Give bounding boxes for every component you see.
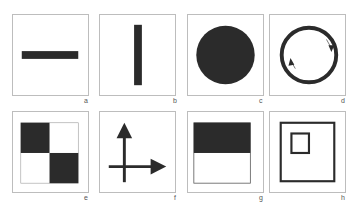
panel-a — [12, 14, 89, 96]
filled-circle-icon — [188, 15, 263, 95]
panel-label-h: h — [341, 194, 345, 202]
half-filled-square-icon — [188, 112, 263, 192]
panel-d — [269, 14, 346, 96]
horizontal-bar-icon — [13, 15, 88, 95]
panel-g — [187, 111, 264, 193]
checkerboard-icon — [13, 112, 88, 192]
panel-label-f: f — [174, 194, 176, 202]
panel-label-b: b — [173, 97, 177, 105]
panel-e — [12, 111, 89, 193]
panel-c — [187, 14, 264, 96]
panel-f — [99, 111, 176, 193]
panel-label-e: e — [84, 194, 88, 202]
vertical-bar-icon — [100, 15, 175, 95]
panel-h — [269, 111, 346, 193]
axes-arrows-icon — [100, 112, 175, 192]
panel-label-d: d — [341, 97, 345, 105]
panel-label-a: a — [84, 97, 88, 105]
panel-label-c: c — [259, 97, 263, 105]
panel-label-g: g — [259, 194, 263, 202]
ring-rotation-icon — [270, 15, 345, 95]
nested-squares-icon — [270, 112, 345, 192]
panel-b — [99, 14, 176, 96]
